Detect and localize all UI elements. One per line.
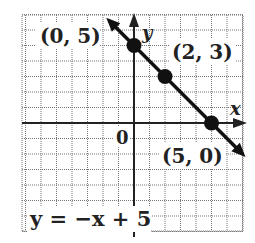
- x-axis-arrow-icon: [233, 118, 247, 128]
- point-label-0-5: (0, 5): [40, 24, 101, 48]
- data-point: [204, 116, 219, 131]
- coordinate-plane: (0, 5) (2, 3) (5, 0) y x 0 y = −x + 5: [0, 0, 255, 243]
- y-axis-label: y: [141, 22, 154, 43]
- point-label-5-0: (5, 0): [162, 144, 223, 168]
- point-label-2-3: (2, 3): [172, 40, 233, 64]
- data-point: [158, 69, 173, 84]
- equation-label: y = −x + 5: [29, 206, 151, 231]
- data-point: [127, 38, 142, 53]
- x-axis-label: x: [229, 98, 241, 119]
- origin-label: 0: [116, 127, 129, 148]
